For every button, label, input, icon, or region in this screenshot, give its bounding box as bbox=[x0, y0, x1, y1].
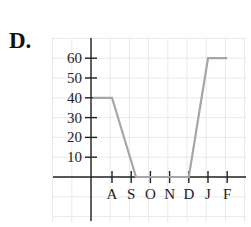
x-tick-label: O bbox=[145, 186, 156, 202]
y-tick-label: 10 bbox=[67, 149, 82, 165]
line-chart: 102030405060ASONDJF bbox=[0, 0, 251, 227]
y-tick-label: 20 bbox=[67, 129, 82, 145]
y-tick-label: 40 bbox=[67, 90, 82, 106]
x-tick-label: F bbox=[223, 186, 231, 202]
x-tick-label: D bbox=[183, 186, 194, 202]
y-tick-label: 30 bbox=[67, 110, 82, 126]
x-tick-label: N bbox=[164, 186, 175, 202]
x-tick-label: A bbox=[107, 186, 118, 202]
y-tick-label: 60 bbox=[67, 50, 82, 66]
x-tick-label: J bbox=[205, 186, 211, 202]
x-tick-label: S bbox=[127, 186, 135, 202]
y-tick-label: 50 bbox=[67, 70, 82, 86]
